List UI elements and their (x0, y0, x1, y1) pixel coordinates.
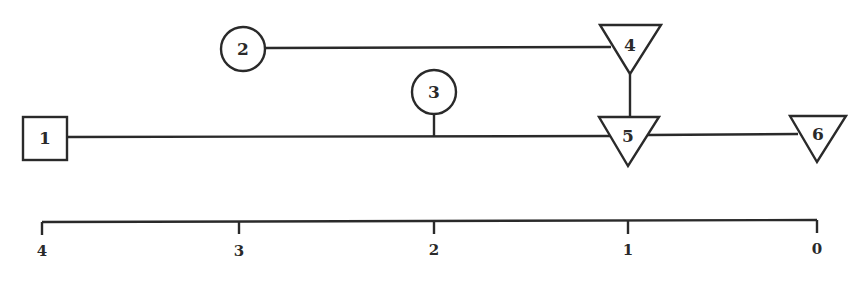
edge-1-5 (67, 136, 610, 137)
edge-2-4 (265, 47, 611, 48)
tick-label: 4 (37, 242, 47, 260)
tick-label: 0 (812, 240, 822, 258)
node-6: 6 (790, 116, 846, 162)
time-axis: 4 3 2 1 0 (37, 220, 822, 260)
node-label: 6 (812, 124, 824, 144)
edge-5-6 (648, 134, 798, 135)
node-label: 3 (428, 82, 440, 102)
node-label: 1 (39, 128, 51, 148)
node-label: 4 (624, 35, 636, 55)
node-4: 4 (600, 25, 661, 74)
node-2: 2 (221, 27, 265, 71)
tick-label: 3 (234, 242, 244, 260)
node-label: 2 (237, 39, 249, 59)
tick-label: 1 (623, 241, 633, 259)
node-label: 5 (622, 126, 634, 146)
node-3: 3 (412, 70, 456, 114)
network-diagram: 1 2 3 4 5 6 4 3 2 1 0 (0, 0, 865, 292)
tick-label: 2 (429, 241, 439, 259)
axis-line (42, 220, 817, 222)
node-5: 5 (599, 117, 659, 166)
node-1: 1 (23, 117, 67, 160)
